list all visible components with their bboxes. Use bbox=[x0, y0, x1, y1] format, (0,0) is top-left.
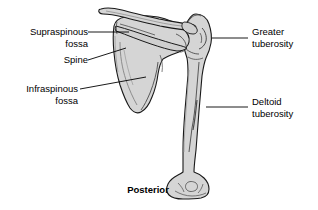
label-spine: Spine bbox=[4, 54, 88, 66]
scapula-bone bbox=[113, 16, 189, 113]
label-greater-tuberosity: Greater tuberosity bbox=[252, 26, 316, 49]
label-deltoid-tuberosity: Deltoid tuberosity bbox=[252, 96, 316, 119]
label-supraspinous-fossa: Supraspinous fossa bbox=[4, 26, 88, 49]
label-infraspinous-fossa: Infraspinous fossa bbox=[4, 83, 78, 106]
anatomy-figure: Supraspinous fossa Spine Infraspinous fo… bbox=[0, 0, 318, 210]
orientation-caption: Posterior bbox=[108, 184, 188, 195]
